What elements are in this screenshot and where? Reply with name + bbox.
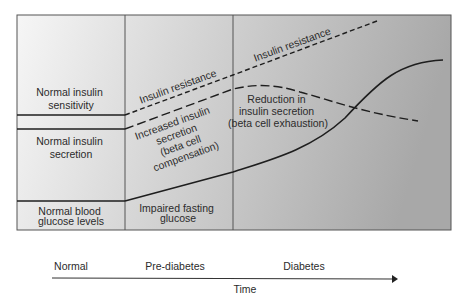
stage-label-normal: Normal: [54, 260, 88, 272]
stage-label-diabetes: Diabetes: [283, 260, 324, 272]
time-arrow-line: [52, 278, 392, 279]
diabetes-progression-diagram: Normal insulin sensitivity Normal insuli…: [0, 0, 469, 305]
time-arrow-head: [392, 275, 398, 283]
stage-label-prediabetes: Pre-diabetes: [145, 260, 205, 272]
axis-label-time: Time: [234, 283, 257, 295]
label-normal-blood-glucose: Normal blood glucose levels: [38, 205, 104, 227]
